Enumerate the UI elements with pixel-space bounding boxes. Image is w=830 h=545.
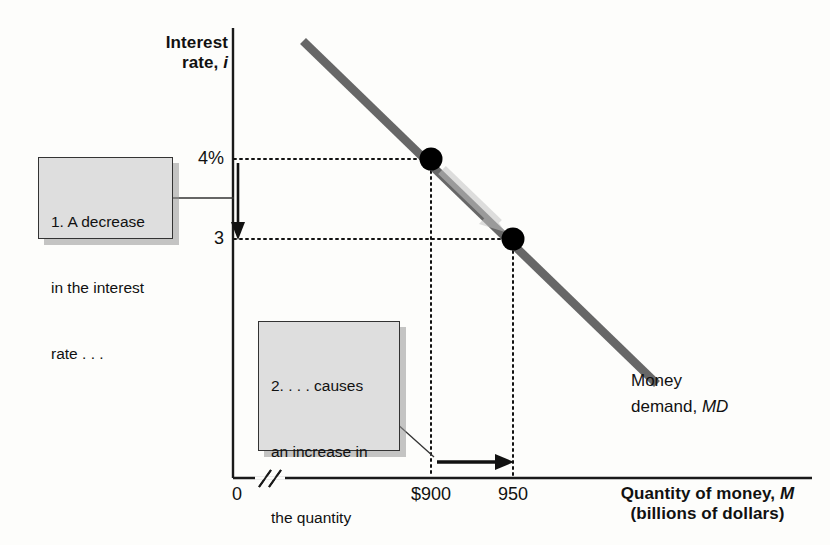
point-a-900-4pct <box>420 148 443 171</box>
callout-1-line-2: in the interest <box>51 277 161 299</box>
x-axis-title: Quantity of money, M(billions of dollars… <box>600 484 815 524</box>
curve-label-line1: Money <box>631 371 682 390</box>
curve-label-symbol: MD <box>702 397 728 416</box>
y-axis-title-line1: Interest <box>166 33 228 52</box>
callout-interest-rate-decrease: 1. A decrease in the interest rate . . . <box>38 157 173 239</box>
y-axis-title-symbol: i <box>223 53 228 72</box>
x-tick-label-900: $900 <box>395 484 467 505</box>
x-axis-title-symbol: M <box>780 484 794 503</box>
x-axis-title-line2: (billions of dollars) <box>630 504 784 523</box>
origin-label: 0 <box>222 484 252 505</box>
callout-1-line-3: rate . . . <box>51 343 161 365</box>
y-axis-title-line2: rate, <box>182 53 223 72</box>
x-axis-title-line1: Quantity of money, <box>621 484 780 503</box>
x-tick-label-950: 950 <box>483 484 543 505</box>
callout-quantity-increase: 2. . . . causes an increase in the quant… <box>258 321 400 451</box>
money-demand-curve-label: Moneydemand, MD <box>631 368 728 419</box>
y-axis-title: Interestrate, i <box>150 33 228 73</box>
point-b-950-3pct <box>502 228 525 251</box>
callout-2-line-3: the quantity <box>271 507 388 529</box>
movement-along-curve-arrow <box>442 170 505 232</box>
callout-1-line-1: 1. A decrease <box>51 211 161 233</box>
callout-2-line-2: an increase in <box>271 441 388 463</box>
quantity-right-arrow <box>437 454 514 470</box>
curve-label-line2: demand, <box>631 397 702 416</box>
callout-2-line-1: 2. . . . causes <box>271 375 388 397</box>
